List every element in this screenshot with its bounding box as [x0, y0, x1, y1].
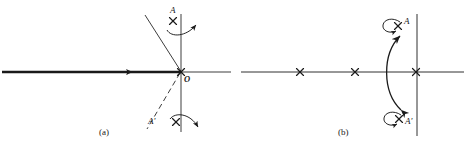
panel-b: A A' (b) — [233, 0, 466, 151]
panel-a-graphics — [0, 0, 233, 151]
panel-b-graphics — [233, 0, 466, 151]
rotation-arrow-upper-a — [167, 25, 196, 35]
panel-a: A A' O (a) — [0, 0, 233, 151]
label-point-a-prime-b: A' — [405, 117, 412, 126]
migration-double-arrow-b — [387, 36, 401, 110]
caption-panel-a: (a) — [99, 128, 109, 137]
label-origin: O — [184, 75, 190, 84]
label-point-a: A — [170, 6, 176, 15]
pole-cross-b-a-prime — [396, 116, 403, 123]
pole-cross-a-upper — [170, 18, 177, 25]
label-point-a-b: A — [404, 17, 410, 26]
caption-panel-b: (b) — [338, 128, 349, 137]
figure-root: A A' O (a) — [0, 0, 466, 151]
pole-cross-b-a — [395, 23, 402, 30]
label-point-a-prime: A' — [148, 117, 155, 126]
pole-cross-a-lower — [173, 119, 180, 126]
